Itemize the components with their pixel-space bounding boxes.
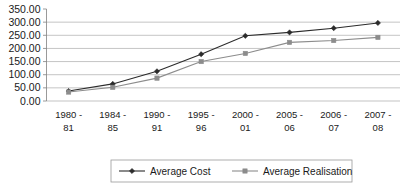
legend-item-label: Average Cost <box>150 166 211 177</box>
x-axis-tick-label: 06 <box>284 122 295 133</box>
x-axis-tick-label: 81 <box>63 122 74 133</box>
x-axis-tick-label: 2007 - <box>364 109 391 120</box>
data-point-marker <box>155 76 159 80</box>
y-axis-tick-label: 150.00 <box>8 55 40 67</box>
y-axis-tick-marks <box>43 9 47 101</box>
chart-container: 0.0050.00100.00150.00200.00250.00300.003… <box>0 0 407 189</box>
y-axis-tick-label: 200.00 <box>8 42 40 54</box>
x-axis-tick-label: 91 <box>152 122 163 133</box>
x-axis-tick-label: 07 <box>328 122 339 133</box>
y-axis-tick-label: 100.00 <box>8 68 40 80</box>
x-axis-tick-label: 85 <box>107 122 118 133</box>
x-axis-tick-label: 1995 - <box>188 109 215 120</box>
data-point-marker <box>199 52 204 57</box>
data-point-marker <box>243 51 247 55</box>
x-axis-tick-label: 1980 - <box>55 109 82 120</box>
legend-marker-icon <box>243 169 247 173</box>
x-axis-tick-label: 2005 - <box>276 109 303 120</box>
x-axis-labels: 1980 -811984 -851990 -911995 -962000 -01… <box>55 109 391 133</box>
y-axis-tick-label: 0.00 <box>20 95 41 107</box>
y-axis-labels: 0.0050.00100.00150.00200.00250.00300.003… <box>8 3 40 107</box>
x-axis-tick-label: 2006 - <box>320 109 347 120</box>
y-axis-tick-label: 350.00 <box>8 3 40 15</box>
data-point-marker <box>375 20 380 25</box>
data-series <box>66 20 381 94</box>
chart-legend: Average CostAverage Realisation <box>111 160 352 182</box>
line-chart: 0.0050.00100.00150.00200.00250.00300.003… <box>0 0 407 189</box>
data-point-marker <box>66 90 70 94</box>
x-axis-tick-label: 1990 - <box>144 109 171 120</box>
y-axis-tick-label: 50.00 <box>14 81 40 93</box>
data-point-marker <box>243 33 248 38</box>
x-axis-tick-label: 08 <box>373 122 384 133</box>
data-point-marker <box>199 59 203 63</box>
data-point-marker <box>287 30 292 35</box>
data-point-marker <box>287 40 291 44</box>
x-axis-tick-label: 1984 - <box>99 109 126 120</box>
x-axis-tick-label: 2000 - <box>232 109 259 120</box>
data-point-marker <box>111 85 115 89</box>
y-axis-tick-label: 250.00 <box>8 29 40 41</box>
data-point-marker <box>154 69 159 74</box>
y-axis-tick-label: 300.00 <box>8 16 40 28</box>
data-point-marker <box>376 35 380 39</box>
data-point-marker <box>332 38 336 42</box>
series-average-realisation <box>66 35 380 94</box>
legend-item-label: Average Realisation <box>263 166 352 177</box>
x-axis-tick-label: 01 <box>240 122 251 133</box>
data-point-marker <box>331 26 336 31</box>
x-axis-tick-label: 96 <box>196 122 207 133</box>
